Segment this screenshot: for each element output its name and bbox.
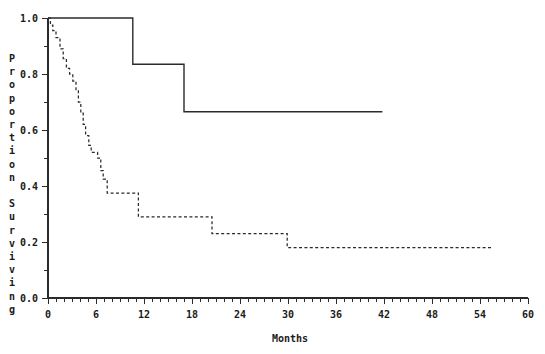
y-axis-title-char: r [9, 225, 15, 236]
y-axis-title-char: g [9, 304, 15, 315]
x-tick-label: 36 [330, 309, 342, 320]
y-tick-label: 0.8 [20, 69, 38, 80]
y-axis-title-char: v [9, 264, 15, 275]
x-tick-label: 60 [522, 309, 534, 320]
y-tick-label: 1.0 [20, 13, 38, 24]
x-tick-label: 0 [45, 309, 51, 320]
x-tick-label: 18 [186, 309, 198, 320]
y-axis-title-char: t [9, 132, 15, 143]
y-axis-title-char: P [9, 53, 15, 64]
x-tick-label: 12 [138, 309, 150, 320]
y-axis-title-char: o [9, 159, 15, 170]
y-tick-label: 0.0 [20, 293, 38, 304]
y-axis-title-char: r [9, 66, 15, 77]
x-tick-label: 6 [93, 309, 99, 320]
y-tick-label: 0.4 [20, 181, 38, 192]
y-axis-title-char: i [9, 145, 15, 156]
x-tick-label: 30 [282, 309, 294, 320]
y-axis-title-char: n [9, 172, 15, 183]
x-axis-title: Months [272, 333, 308, 344]
y-axis-title-char: v [9, 238, 15, 249]
y-axis-title-char: o [9, 106, 15, 117]
chart-canvas: 1.0 0.8 0.6 0.4 0.2 0.0 0612182430364248… [0, 0, 545, 354]
y-axis-title-char: S [9, 198, 15, 209]
y-axis-title-char: p [9, 93, 15, 104]
y-axis-title-char: r [9, 119, 15, 130]
y-tick-label: 0.2 [20, 237, 38, 248]
x-tick-label: 48 [426, 309, 438, 320]
y-tick-label: 0.6 [20, 125, 38, 136]
y-axis-title-char: i [9, 251, 15, 262]
y-axis-title-char: i [9, 277, 15, 288]
km-survival-chart: 1.0 0.8 0.6 0.4 0.2 0.0 0612182430364248… [0, 0, 545, 354]
y-axis-title-char: u [9, 211, 15, 222]
x-tick-label: 42 [378, 309, 390, 320]
y-axis-title-char: o [9, 79, 15, 90]
y-axis-title-char: n [9, 291, 15, 302]
x-tick-label: 54 [474, 309, 486, 320]
x-tick-label: 24 [234, 309, 246, 320]
